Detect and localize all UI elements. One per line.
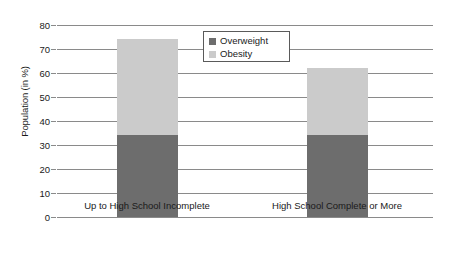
bar-segment-0-obesity <box>117 39 178 135</box>
chart-legend: Overweight Obesity <box>203 31 290 62</box>
y-tick-mark-10 <box>51 193 56 194</box>
bar-0 <box>117 25 178 217</box>
legend-swatch-overweight <box>209 38 216 45</box>
y-tick-label-20: 20 <box>39 164 50 175</box>
y-tick-mark-60 <box>51 73 56 74</box>
y-tick-mark-20 <box>51 169 56 170</box>
legend-label-overweight: Overweight <box>220 36 268 46</box>
y-tick-label-60: 60 <box>39 68 50 79</box>
x-axis-label-1: High School Complete or More <box>212 200 452 211</box>
y-tick-mark-80 <box>51 25 56 26</box>
gridline-20 <box>57 169 433 170</box>
y-tick-label-70: 70 <box>39 44 50 55</box>
bar-1 <box>307 25 368 217</box>
y-tick-mark-40 <box>51 121 56 122</box>
y-tick-label-10: 10 <box>39 188 50 199</box>
gridline-40 <box>57 121 433 122</box>
gridline-50 <box>57 97 433 98</box>
gridline-10 <box>57 193 433 194</box>
legend-item-overweight: Overweight <box>209 35 289 47</box>
y-tick-label-50: 50 <box>39 92 50 103</box>
legend-item-obesity: Obesity <box>209 48 289 60</box>
y-tick-label-40: 40 <box>39 116 50 127</box>
gridline-80 <box>57 25 433 26</box>
gridline-30 <box>57 145 433 146</box>
gridline-60 <box>57 73 433 74</box>
gridline-0 <box>57 217 433 218</box>
stacked-bar-chart: Population (in %) 01020304050607080 Up t… <box>0 0 452 254</box>
y-tick-mark-0 <box>51 217 56 218</box>
y-tick-mark-50 <box>51 97 56 98</box>
y-tick-label-80: 80 <box>39 20 50 31</box>
y-tick-label-0: 0 <box>45 212 50 223</box>
y-tick-mark-30 <box>51 145 56 146</box>
y-tick-label-30: 30 <box>39 140 50 151</box>
legend-swatch-obesity <box>209 51 216 58</box>
legend-label-obesity: Obesity <box>220 49 252 59</box>
y-tick-mark-70 <box>51 49 56 50</box>
y-axis-title: Population (in %) <box>19 22 30 182</box>
bar-segment-1-obesity <box>307 68 368 135</box>
